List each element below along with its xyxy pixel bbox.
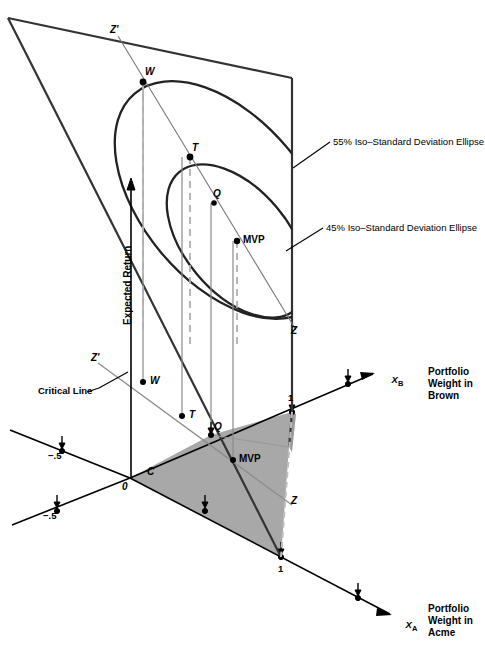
label-z-plane: Z — [291, 325, 297, 337]
point-MVP-base[interactable] — [230, 457, 236, 463]
projector-lines-solid — [143, 82, 233, 460]
label-z-base: Z — [291, 495, 297, 507]
axis-desc-brown: Portfolio Weight in Brown — [428, 366, 473, 401]
axis-label-xa: XA — [395, 608, 417, 645]
tick-label-xa-neg: −.5 — [43, 510, 56, 521]
label-expected-return: Expected Return — [122, 246, 133, 325]
point-Q-plane[interactable] — [211, 200, 217, 206]
axis-label-xa-sub: A — [412, 624, 417, 633]
tick-label-xb-neg: −.5 — [48, 450, 61, 461]
expected-return-arrowhead — [127, 178, 135, 190]
ellipse-55-outer — [72, 41, 376, 359]
label-t-top: T — [192, 142, 198, 154]
tick-xa-mid-dot — [202, 508, 207, 513]
arrowhead-xb — [360, 372, 375, 380]
label-z-prime-top: Z' — [110, 24, 119, 36]
diagram-canvas: Z' W T Q MVP Z Expected Return 55% Iso–S… — [0, 0, 485, 645]
callout-55-leader — [293, 142, 330, 168]
callout-55-label: 55% Iso–Standard Deviation Ellipse — [333, 136, 484, 147]
label-c-base: C — [147, 466, 154, 478]
label-w-top: W — [145, 66, 154, 78]
label-q-top: Q — [213, 188, 221, 200]
axis-desc-acme: Portfolio Weight in Acme — [428, 603, 473, 638]
label-z-prime-base: Z' — [91, 352, 100, 364]
arrowhead-xa — [376, 608, 392, 616]
point-W-plane[interactable] — [140, 79, 147, 86]
axis-label-xb: XB — [381, 363, 403, 400]
projector-lines-dashed — [143, 82, 237, 345]
tick-xb-2-dot — [345, 381, 350, 386]
diagram-svg — [0, 0, 485, 645]
point-W-base[interactable] — [140, 379, 146, 385]
axis-xa-negative — [12, 478, 130, 525]
tick-label-xa-one: 1 — [278, 563, 283, 574]
label-mvp-base: MVP — [239, 453, 261, 465]
point-T-plane[interactable] — [187, 154, 194, 161]
point-T-base[interactable] — [179, 413, 185, 419]
tick-xa-far-dot — [355, 595, 360, 600]
label-w-base: W — [150, 375, 159, 387]
axis-label-xb-sub: B — [398, 379, 403, 388]
callout-45-label: 45% Iso–Standard Deviation Ellipse — [326, 222, 477, 233]
point-MVP-plane[interactable] — [234, 238, 240, 244]
label-q-base: Q — [214, 421, 222, 433]
axis-xb-negative — [10, 430, 130, 478]
expected-return-axis-group — [127, 178, 135, 478]
tick-label-xb-one: 1 — [288, 392, 293, 403]
axis-arrowheads — [360, 372, 392, 616]
label-critical-line: Critical Line — [38, 385, 92, 396]
label-origin: 0 — [122, 481, 128, 493]
ellipse-group — [72, 41, 376, 359]
critical-line-leader-group — [87, 372, 128, 392]
label-t-base: T — [189, 409, 195, 421]
label-mvp-top: MVP — [243, 234, 265, 246]
